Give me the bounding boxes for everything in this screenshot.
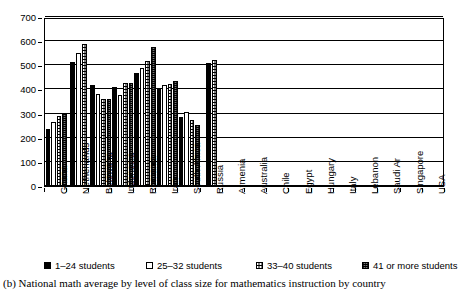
x-tick-label-netherlands: Netherlands — [81, 143, 91, 194]
y-tick-label-0: 0 — [31, 182, 36, 192]
y-tick-label-100: 100 — [20, 158, 36, 168]
x-axis: GhanaNetherlandsBotswanaIndonesiaRomania… — [44, 188, 444, 254]
bar-group-ghana — [45, 19, 67, 186]
x-tick-label-armenia: Armenia — [237, 159, 247, 194]
x-tick-label-iran: Iran — [170, 178, 180, 194]
x-tick-label-chile: Chile — [281, 172, 291, 194]
legend-swatch-white-open — [146, 262, 153, 269]
legend-swatch-white-dotted — [256, 262, 263, 269]
bar-south-africa-series-1 — [184, 112, 189, 186]
legend-item-2: 33–40 students — [256, 260, 332, 271]
bar-group-iran — [156, 19, 178, 186]
bar-ghana-series-0 — [46, 129, 51, 186]
legend-item-1: 25–32 students — [146, 260, 222, 271]
bar-netherlands-series-0 — [70, 62, 75, 186]
legend-label-1: 25–32 students — [157, 260, 222, 271]
bar-south-africa-series-0 — [179, 117, 184, 186]
legend-label-0: 1–24 students — [55, 260, 115, 271]
bar-ghana-series-1 — [51, 122, 56, 186]
x-tick-label-usa: USA — [437, 174, 447, 194]
y-tick-mark-200 — [38, 139, 42, 140]
legend-item-3: 41 or more students — [362, 260, 458, 271]
bar-iran-series-3 — [173, 81, 178, 187]
x-tick-label-hungary: Hungary — [326, 158, 336, 194]
gridline-700 — [45, 16, 443, 17]
x-tick-label-botswana: Botswana — [104, 152, 114, 194]
figure-caption: (b) National math average by level of cl… — [3, 277, 386, 290]
bar-group-usa — [423, 19, 445, 186]
x-tick-label-australia: Australia — [259, 157, 269, 194]
y-tick-mark-400 — [38, 90, 42, 91]
bar-iran-series-2 — [168, 84, 173, 186]
bar-botswana-series-1 — [96, 94, 101, 186]
x-tick-label-romania: Romania — [148, 156, 158, 194]
y-tick-mark-100 — [38, 163, 42, 164]
chart-legend: 1–24 students25–32 students33–40 student… — [44, 258, 456, 272]
bar-group-egypt — [289, 19, 311, 186]
y-tick-mark-0 — [38, 187, 42, 188]
x-tick-label-italy: Italy — [348, 177, 358, 194]
legend-label-2: 33–40 students — [267, 260, 332, 271]
y-tick-label-600: 600 — [20, 37, 36, 47]
x-tick-label-south-africa: South Africa — [192, 143, 202, 194]
y-tick-label-200: 200 — [20, 134, 36, 144]
bar-romania-series-1 — [140, 68, 145, 186]
y-tick-label-300: 300 — [20, 110, 36, 120]
legend-swatch-grey-hatched — [362, 262, 369, 269]
bar-iran-series-1 — [162, 85, 167, 186]
bar-group-italy — [334, 19, 356, 186]
legend-item-0: 1–24 students — [44, 260, 115, 271]
x-tick-mark-0 — [44, 188, 45, 192]
y-tick-mark-600 — [38, 42, 42, 43]
x-tick-label-egypt: Egypt — [304, 170, 314, 194]
bar-indonesia-series-1 — [118, 95, 123, 186]
legend-swatch-solid-black — [44, 262, 51, 269]
y-axis: 0100200300400500600700 — [0, 18, 42, 188]
x-tick-label-russia: Russia — [215, 165, 225, 194]
bar-group-chile — [267, 19, 289, 186]
y-tick-label-500: 500 — [20, 61, 36, 71]
y-tick-mark-500 — [38, 66, 42, 67]
x-tick-label-ghana: Ghana — [59, 165, 69, 194]
y-tick-mark-300 — [38, 115, 42, 116]
x-tick-label-singapore: Singapore — [415, 151, 425, 194]
x-tick-label-saudi-ar: Saudi Ar — [392, 158, 402, 194]
y-tick-mark-700 — [38, 18, 42, 19]
y-tick-label-400: 400 — [20, 85, 36, 95]
legend-label-3: 41 or more students — [373, 260, 458, 271]
bar-group-russia — [201, 19, 223, 186]
bar-russia-series-0 — [206, 63, 211, 186]
x-tick-label-lebanon: Lebanon — [370, 157, 380, 194]
x-tick-label-indonesia: Indonesia — [126, 153, 136, 194]
chart-figure: 0100200300400500600700 GhanaNetherlandsB… — [0, 0, 462, 296]
y-tick-label-700: 700 — [20, 13, 36, 23]
